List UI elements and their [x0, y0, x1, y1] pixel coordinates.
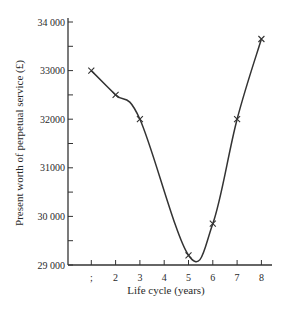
x-tick-label: 6 [210, 272, 215, 283]
y-tick-label: 32000 [40, 114, 65, 125]
y-tick-label: 31000 [40, 162, 65, 173]
y-tick-label: 29 000 [38, 260, 66, 271]
series-line [91, 39, 261, 262]
y-tick-label: 33000 [40, 65, 65, 76]
x-axis-title: Life cycle (years) [127, 284, 205, 297]
y-tick-label: 30 000 [38, 211, 66, 222]
x-tick-label: 5 [186, 272, 191, 283]
y-axis: 29 00030 00031000320003300034 000 [38, 17, 74, 271]
x-tick-label: 8 [259, 272, 264, 283]
data-series [88, 36, 264, 262]
y-tick-label: 34 000 [38, 17, 66, 28]
x-axis: ;2345678 [68, 260, 272, 283]
x-tick-label: 3 [137, 272, 142, 283]
x-tick-label: 4 [162, 272, 167, 283]
y-axis-title: Present worth of perpetual service (£) [13, 60, 26, 226]
x-marker-icon [186, 252, 192, 258]
x-marker-icon [137, 116, 143, 122]
x-tick-label: 2 [113, 272, 118, 283]
x-marker-icon [88, 68, 94, 74]
x-tick-label: ; [90, 272, 93, 283]
x-tick-label: 7 [235, 272, 240, 283]
line-chart: 29 00030 00031000320003300034 000 ;23456… [0, 0, 286, 315]
x-marker-icon [113, 92, 119, 98]
